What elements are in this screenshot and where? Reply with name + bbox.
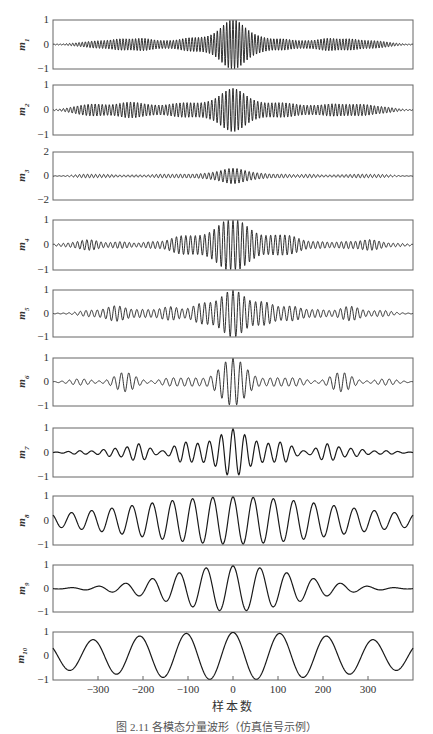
y-tick-label: −1 [31, 605, 49, 617]
y-tick-label: 0 [31, 307, 49, 319]
x-tick-label: −300 [78, 683, 118, 695]
y-tick-label: 0 [31, 38, 49, 50]
y-tick-label: 0 [31, 582, 49, 594]
y-axis-label-m1: m1 [15, 38, 30, 50]
y-tick-label: 0 [31, 375, 49, 387]
y-tick-label: 1 [31, 489, 49, 501]
waveform-m1 [53, 20, 413, 68]
y-axis-label-m10: m10 [14, 648, 29, 664]
y-tick-label: −1 [31, 263, 49, 275]
panel-m6 [53, 358, 413, 406]
y-tick-label: 0 [31, 514, 49, 526]
y-axis-label-m7: m7 [15, 446, 30, 458]
y-tick-label: −1 [31, 128, 49, 140]
panel-frame [53, 632, 413, 680]
panel-m2 [53, 85, 413, 135]
x-tick-label: 200 [303, 683, 343, 695]
panel-m3 [53, 152, 413, 200]
waveform-m6 [53, 358, 413, 404]
y-tick-label: −1 [31, 330, 49, 342]
panel-m5 [53, 290, 413, 337]
x-tick-label: −200 [123, 683, 163, 695]
y-tick-label: −2 [31, 193, 49, 205]
y-axis-label-m5: m5 [15, 307, 30, 319]
waveform-m4 [53, 221, 413, 270]
y-tick-label: 1 [31, 283, 49, 295]
waveform-m8 [53, 497, 413, 544]
panel-m10 [53, 632, 413, 680]
panel-m7 [53, 428, 413, 477]
y-tick-label: 0 [31, 169, 49, 181]
y-axis-label-m3: m3 [15, 170, 30, 182]
waveform-m5 [53, 290, 413, 336]
y-tick-label: 1 [31, 213, 49, 225]
y-axis-label-m6: m6 [15, 376, 30, 388]
y-tick-label: −1 [31, 673, 49, 685]
figure-caption: 图 2.11 各模态分量波形（仿真信号示例） [0, 718, 433, 734]
y-tick-label: −1 [31, 538, 49, 550]
x-tick-label: −100 [168, 683, 208, 695]
y-tick-label: 1 [31, 13, 49, 25]
y-axis-label-m4: m4 [15, 239, 30, 251]
y-tick-label: 1 [31, 78, 49, 90]
y-tick-label: 1 [31, 625, 49, 637]
panel-frame [53, 565, 413, 612]
y-tick-label: 0 [31, 649, 49, 661]
y-tick-label: 1 [31, 558, 49, 570]
waveform-m7 [53, 429, 413, 475]
y-tick-label: 0 [31, 446, 49, 458]
y-tick-label: −1 [31, 470, 49, 482]
x-tick-label: 300 [348, 683, 388, 695]
panel-m8 [53, 496, 413, 545]
waveform-m9 [53, 566, 413, 611]
y-tick-label: 1 [31, 421, 49, 433]
panel-m4 [53, 220, 413, 270]
waveform-m3 [53, 168, 413, 183]
x-axis-label: 样本数 [183, 697, 283, 715]
panel-m9 [53, 565, 413, 612]
y-axis-label-m8: m8 [15, 514, 30, 526]
y-axis-label-m9: m9 [15, 582, 30, 594]
waveform-m2 [53, 88, 413, 131]
panel-m1 [53, 20, 413, 69]
waveform-m10 [53, 632, 413, 679]
y-tick-label: 0 [31, 238, 49, 250]
x-tick-label: 100 [258, 683, 298, 695]
y-tick-label: −1 [31, 399, 49, 411]
panel-frame [53, 358, 413, 406]
y-tick-label: −1 [31, 62, 49, 74]
x-tick-label: 0 [213, 683, 253, 695]
y-tick-label: 1 [31, 351, 49, 363]
y-axis-label-m2: m2 [15, 104, 30, 116]
y-tick-label: 2 [31, 145, 49, 157]
y-tick-label: 0 [31, 103, 49, 115]
